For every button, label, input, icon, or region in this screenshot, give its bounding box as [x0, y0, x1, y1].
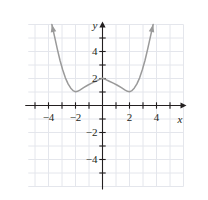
y-axis-tick-label: 4 — [80, 46, 98, 57]
graph-figure: −4−22442−2−4xy — [0, 0, 208, 200]
y-axis-tick-label: 2 — [80, 73, 98, 84]
y-axis-tick-label: −4 — [80, 154, 98, 165]
x-axis-tick-label: 4 — [148, 112, 166, 123]
x-axis-tick-label: −2 — [67, 112, 85, 123]
y-axis-tick-label: −2 — [80, 127, 98, 138]
axes — [25, 22, 186, 190]
x-axis-tick-label: −4 — [40, 112, 58, 123]
coordinate-plane — [0, 0, 208, 200]
y-axis-label: y — [93, 20, 98, 31]
x-axis-label: x — [178, 114, 183, 125]
x-axis-tick-label: 2 — [121, 112, 139, 123]
